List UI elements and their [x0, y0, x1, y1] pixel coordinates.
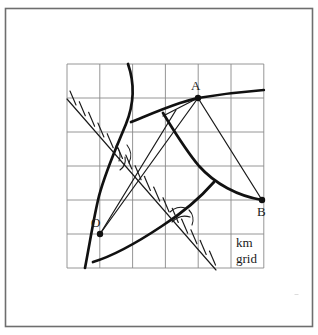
point-marker-O [97, 231, 103, 237]
paper-background [0, 0, 318, 335]
point-marker-B [259, 197, 265, 203]
km-grid-figure: O A B km grid [0, 0, 318, 335]
point-label-B: B [257, 204, 266, 219]
figure-root: O A B km grid [0, 0, 318, 335]
point-label-O: O [91, 215, 100, 230]
point-label-A: A [191, 78, 201, 93]
caption-line-km: km [236, 235, 253, 250]
caption-line-grid: grid [236, 251, 257, 266]
point-marker-A [195, 95, 201, 101]
